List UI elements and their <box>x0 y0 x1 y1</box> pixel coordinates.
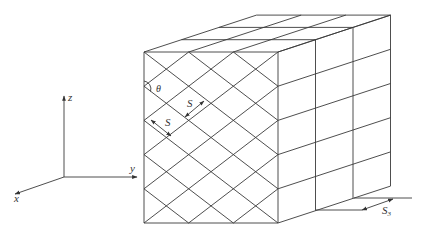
theta-label: θ <box>156 83 161 94</box>
right-face-depth-line <box>278 152 391 189</box>
x-axis-label: x <box>13 192 19 204</box>
right-face-depth-line <box>278 49 391 86</box>
cube-wireframe <box>144 15 391 223</box>
x-axis <box>15 177 64 194</box>
layer-spacing-arrow <box>362 199 393 210</box>
angle-arc <box>144 81 151 92</box>
right-face-depth-line <box>278 15 391 52</box>
right-face-depth-line <box>278 186 391 223</box>
z-axis-label: z <box>67 91 73 103</box>
fiber-lattice-cube-diagram: z y x θ S S S3 <box>0 0 421 231</box>
right-face-depth-line <box>278 118 391 155</box>
top-face-depth-line <box>144 15 257 52</box>
diamond-fiber-lattice <box>144 52 278 223</box>
s3-subscript: 3 <box>387 210 392 218</box>
top-face-depth-line <box>189 15 301 52</box>
layer-spacing-label: S3 <box>382 204 392 218</box>
coordinate-axes: z y x <box>13 91 137 204</box>
spacing-label-lower: S <box>165 116 171 128</box>
top-face-depth-line <box>233 15 346 52</box>
right-face-depth-line <box>278 84 391 121</box>
y-axis-label: y <box>129 162 135 174</box>
spacing-label-upper: S <box>187 97 193 109</box>
